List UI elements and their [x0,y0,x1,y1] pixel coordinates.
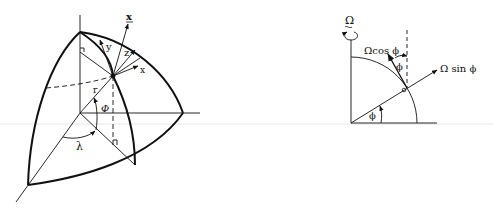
label-omega-cos-phi: Ωcos ϕ [364,45,399,56]
omega-sin-arrow [351,70,437,123]
label-r: r [93,85,98,95]
label-phi: Φ [101,103,109,114]
label-phi-upper: ϕ [396,61,403,72]
label-lambda: λ [76,140,83,153]
label-omega-sin-phi: Ω sin ϕ [440,63,476,74]
lambda-arc [63,131,95,138]
label-x: x [140,65,145,75]
phi-arc [94,98,97,130]
label-y: y [105,41,112,52]
pole-to-point [80,52,113,76]
label-x-bold: x [126,11,133,22]
octant-outline-left [28,32,80,185]
rotation-figure [345,30,437,123]
phi-arc-lower [380,106,382,123]
rotation-curl-icon [345,32,358,40]
latitude-circle [46,76,113,88]
label-z: z [124,47,129,58]
label-phi-lower: ϕ [369,110,376,121]
meridian-plane-line [80,113,135,165]
point-p [111,74,115,78]
equatorial-axis-front [16,113,80,202]
right-angle-top [80,48,84,52]
label-omega: Ω [345,14,354,27]
